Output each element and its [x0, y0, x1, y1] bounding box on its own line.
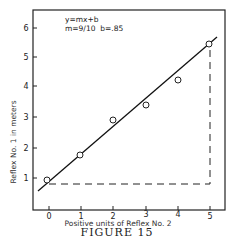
y-tick-label: 1	[23, 174, 28, 183]
dashed-guide-lines	[49, 48, 210, 184]
y-tick-label: 5	[23, 53, 28, 62]
parameters-annotation: m=9/10 b=.85	[65, 24, 123, 33]
y-tick-label: 2	[23, 144, 28, 153]
x-axis: 0 1 2 3 4 5 Positive units of Reflex No.…	[46, 206, 212, 228]
data-point	[77, 152, 83, 158]
y-tick-label: 3	[23, 113, 28, 122]
x-tick-label: 4	[175, 210, 180, 219]
data-point	[110, 117, 116, 123]
x-tick-label: 0	[46, 212, 51, 221]
fit-line	[38, 37, 217, 191]
data-point	[143, 102, 149, 108]
x-tick-label: 3	[143, 210, 148, 219]
data-point	[44, 177, 50, 183]
data-point	[175, 77, 181, 83]
y-tick-label: 6	[23, 24, 28, 33]
y-tick-label: 4	[23, 82, 28, 91]
figure-caption: FIGURE 15	[0, 226, 234, 239]
scatter-chart: 6 5 4 3 2 1 Reflex No. 1 in meters 0 1 2…	[0, 0, 234, 243]
x-tick-label: 5	[207, 212, 212, 221]
data-point	[206, 41, 212, 47]
y-axis-title: Reflex No. 1 in meters	[9, 100, 18, 183]
equation-annotation: y=mx+b	[65, 15, 99, 24]
plot-frame	[33, 10, 225, 210]
